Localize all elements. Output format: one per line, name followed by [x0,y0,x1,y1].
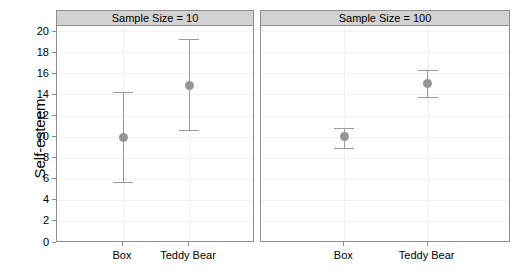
gridline-horizontal [57,116,253,117]
error-bar-lower-cap [113,182,133,183]
x-axis-panel-1: BoxTeddy Bear [56,242,254,272]
error-bar-lower-cap [179,130,199,131]
panel-strip-label: Sample Size = 10 [56,10,254,26]
x-axis-tick-mark [343,242,344,246]
data-point [185,81,194,90]
gridline-vertical [428,26,429,241]
y-axis-tick-label: 14 [37,89,52,100]
error-bar-lower-cap [418,97,438,98]
gridline-horizontal [261,158,509,159]
x-axis-tick-mark [427,242,428,246]
y-axis-tick-label: 8 [43,152,52,163]
gridline-horizontal [261,73,509,74]
error-bar-upper-cap [418,70,438,71]
gridline-horizontal [261,221,509,222]
y-axis-tick-label: 20 [37,26,52,37]
panel-2: Sample Size = 100 [260,10,510,242]
gridline-horizontal [261,179,509,180]
panel-plot-area [56,26,254,242]
x-axis-panel-2: BoxTeddy Bear [260,242,510,272]
x-axis-tick-label: Teddy Bear [399,249,455,261]
y-axis-tick-label: 0 [43,237,52,248]
gridline-horizontal [57,158,253,159]
gridline-horizontal [261,31,509,32]
gridline-horizontal [57,31,253,32]
gridline-horizontal [261,94,509,95]
x-axis-tick-mark [188,242,189,246]
x-axis-tick-mark [122,242,123,246]
y-axis-tick-label: 6 [43,173,52,184]
gridline-horizontal [57,137,253,138]
panel-plot-area [260,26,510,242]
error-bar-upper-cap [179,39,199,40]
y-axis-tick-label: 4 [43,194,52,205]
x-axis-tick-label: Box [334,249,353,261]
x-axis-tick-label: Box [113,249,132,261]
y-axis-tick-label: 2 [43,215,52,226]
gridline-horizontal [57,94,253,95]
self-esteem-errorbar-chart: Self-esteem 02468101214161820 Sample Siz… [0,0,516,277]
y-axis-tick-label: 18 [37,47,52,58]
gridline-horizontal [57,52,253,53]
gridline-horizontal [57,200,253,201]
gridline-horizontal [261,200,509,201]
y-axis: 02468101214161820 [26,0,56,277]
x-axis-tick-label: Teddy Bear [160,249,216,261]
gridline-horizontal [57,73,253,74]
gridline-horizontal [261,116,509,117]
gridline-horizontal [57,179,253,180]
panel-strip-label: Sample Size = 100 [260,10,510,26]
gridline-horizontal [261,52,509,53]
panel-1: Sample Size = 10 [56,10,254,242]
y-axis-tick-label: 12 [37,110,52,121]
y-axis-tick-label: 16 [37,68,52,79]
gridline-horizontal [57,221,253,222]
error-bar-lower-cap [334,148,354,149]
data-point [340,132,349,141]
y-axis-tick-label: 10 [37,131,52,142]
error-bar-upper-cap [113,92,133,93]
gridline-horizontal [261,137,509,138]
data-point [423,79,432,88]
error-bar-upper-cap [334,128,354,129]
data-point [119,133,128,142]
